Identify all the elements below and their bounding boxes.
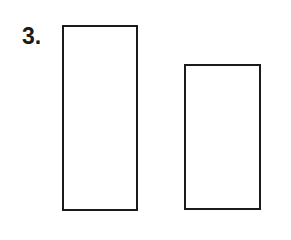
- short-rectangle: [184, 64, 261, 210]
- problem-number-label: 3.: [22, 25, 41, 48]
- tall-rectangle: [62, 25, 138, 211]
